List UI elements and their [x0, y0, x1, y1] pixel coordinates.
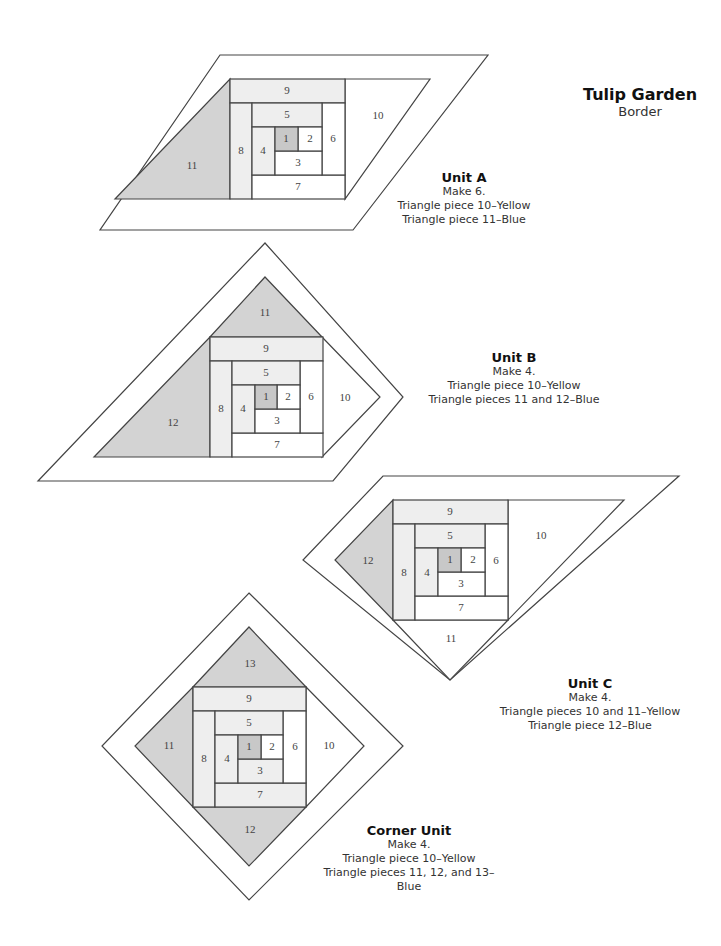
label-6: 6	[493, 554, 499, 566]
label-6: 6	[308, 390, 314, 402]
label-5: 5	[263, 366, 269, 378]
label-11: 11	[446, 632, 457, 644]
unit-b-line: Triangle pieces 11 and 12–Blue	[424, 393, 604, 407]
unit-c-line: Triangle piece 12–Blue	[490, 719, 690, 733]
label-8: 8	[238, 144, 244, 156]
label-5: 5	[447, 529, 453, 541]
label-3: 3	[274, 414, 280, 426]
label-2: 2	[269, 740, 275, 752]
label-12: 12	[363, 554, 374, 566]
unit-a-line: Triangle piece 11–Blue	[394, 213, 534, 227]
label-1: 1	[447, 553, 453, 565]
label-4: 4	[240, 402, 246, 414]
unit-c-title: Unit C	[490, 676, 690, 691]
label-1: 1	[246, 740, 252, 752]
unit-a-title: Unit A	[394, 170, 534, 185]
page-title: Tulip Garden Border	[583, 86, 697, 119]
label-10: 10	[340, 391, 352, 403]
corner-unit-line: Triangle piece 10–Yellow	[313, 852, 505, 866]
unit-b-caption: Unit B Make 4. Triangle piece 10–Yellow …	[424, 350, 604, 407]
title-main: Tulip Garden	[583, 86, 697, 104]
label-4: 4	[224, 752, 230, 764]
unit-c-caption: Unit C Make 4. Triangle pieces 10 and 11…	[490, 676, 690, 733]
label-10: 10	[324, 739, 336, 751]
unit-a-line: Triangle piece 10–Yellow	[394, 199, 534, 213]
label-6: 6	[292, 740, 298, 752]
label-5: 5	[246, 716, 252, 728]
label-10: 10	[536, 529, 548, 541]
corner-unit-title: Corner Unit	[313, 823, 505, 838]
label-1: 1	[263, 390, 269, 402]
label-7: 7	[257, 788, 263, 800]
label-10: 10	[373, 109, 385, 121]
label-2: 2	[470, 553, 476, 565]
label-9: 9	[246, 692, 252, 704]
label-11: 11	[187, 159, 198, 171]
unit-c-line: Triangle pieces 10 and 11–Yellow	[490, 705, 690, 719]
label-11: 11	[164, 739, 175, 751]
corner-unit-caption: Corner Unit Make 4. Triangle piece 10–Ye…	[313, 823, 505, 894]
label-7: 7	[458, 601, 464, 613]
label-6: 6	[330, 132, 336, 144]
corner-unit-line: Make 4.	[313, 838, 505, 852]
label-13: 13	[245, 657, 257, 669]
label-3: 3	[458, 577, 464, 589]
label-11: 11	[260, 306, 271, 318]
unit-a-line: Make 6.	[394, 185, 534, 199]
unit-a-caption: Unit A Make 6. Triangle piece 10–Yellow …	[394, 170, 534, 227]
label-4: 4	[424, 566, 430, 578]
label-9: 9	[284, 84, 290, 96]
label-9: 9	[263, 342, 269, 354]
unit-c-piece-10	[508, 500, 624, 620]
unit-c-line: Make 4.	[490, 691, 690, 705]
label-8: 8	[401, 566, 407, 578]
label-9: 9	[447, 505, 453, 517]
label-8: 8	[201, 752, 207, 764]
label-12: 12	[168, 416, 179, 428]
unit-b-line: Triangle piece 10–Yellow	[424, 379, 604, 393]
label-1: 1	[283, 132, 289, 144]
label-2: 2	[285, 390, 291, 402]
label-3: 3	[257, 764, 263, 776]
label-7: 7	[274, 438, 280, 450]
unit-b-line: Make 4.	[424, 365, 604, 379]
label-2: 2	[307, 132, 313, 144]
label-3: 3	[295, 156, 301, 168]
title-sub: Border	[583, 104, 697, 119]
unit-c-piece-11	[393, 620, 508, 680]
unit-c-diagram: 9 8 7 6 5 4 3 2 1 10 11 12	[303, 476, 679, 680]
unit-b-piece-12	[94, 337, 210, 457]
corner-unit-line: Triangle pieces 11, 12, and 13–Blue	[313, 866, 505, 894]
label-8: 8	[218, 402, 224, 414]
label-12: 12	[245, 823, 256, 835]
label-4: 4	[260, 144, 266, 156]
unit-b-title: Unit B	[424, 350, 604, 365]
label-5: 5	[284, 108, 290, 120]
label-7: 7	[295, 180, 301, 192]
unit-a-piece-11	[115, 79, 230, 199]
unit-b-diagram: 9 8 7 6 5 4 3 2 1 10 11 12	[38, 243, 403, 481]
